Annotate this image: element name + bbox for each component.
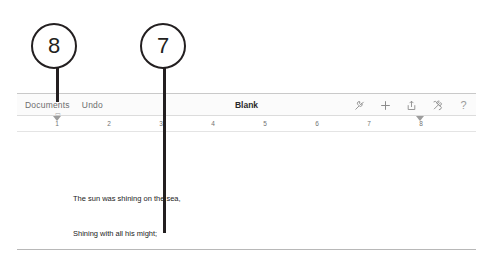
documents-button[interactable]: Documents — [25, 100, 70, 110]
toolbar-right-group: ? — [354, 94, 469, 116]
text-line: Shining with all his might; — [73, 228, 184, 240]
callout-7-label: 7 — [157, 33, 169, 59]
toolbar-left-group: Documents Undo — [25, 100, 103, 110]
toolbar: Documents Undo Blank — [17, 94, 476, 116]
callout-7-badge: 7 — [140, 23, 186, 69]
plus-insert-icon[interactable] — [380, 99, 391, 111]
share-export-icon[interactable] — [406, 99, 417, 111]
help-question-icon[interactable]: ? — [458, 99, 469, 111]
ruler-tick-7: 7 — [367, 120, 371, 127]
ruler-tick-5: 5 — [263, 120, 267, 127]
wrench-format-icon[interactable] — [354, 99, 365, 111]
word-processor-window: Documents Undo Blank — [17, 93, 476, 250]
document-page[interactable]: The sun was shining on the sea, Shining … — [17, 132, 476, 249]
undo-button[interactable]: Undo — [82, 100, 103, 110]
callout-8-label: 8 — [48, 33, 60, 59]
ruler-tick-6: 6 — [315, 120, 319, 127]
text-line: The sun was shining on the sea, — [73, 193, 184, 205]
ruler-tick-1: 1 — [55, 120, 59, 127]
callout-8-badge: 8 — [31, 23, 77, 69]
ruler[interactable]: ▭ 1 2 3 4 5 6 7 8 — [17, 116, 476, 132]
ruler-tick-8: 8 — [419, 120, 423, 127]
text-body[interactable]: The sun was shining on the sea, Shining … — [73, 170, 184, 249]
ruler-tick-2: 2 — [107, 120, 111, 127]
callout-7-leader-line — [163, 68, 166, 233]
ruler-tick-4: 4 — [211, 120, 215, 127]
callout-8-leader-line — [56, 68, 59, 102]
tools-settings-icon[interactable] — [432, 99, 443, 111]
